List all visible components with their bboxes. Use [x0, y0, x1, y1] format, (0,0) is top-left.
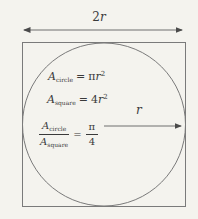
result-fraction: π 4	[86, 122, 99, 147]
circle-area-formula: Acircle=πr2	[48, 71, 105, 83]
numerator-subscript: circle	[49, 125, 66, 132]
result-denominator: 4	[89, 135, 95, 147]
circle-area-symbol: A	[48, 70, 56, 83]
square-area-subscript: square	[55, 99, 76, 106]
exponent: 2	[103, 93, 107, 101]
figure-canvas: 2r r Acircle=πr2 Asquare=4r2 Acircle Asq…	[0, 0, 198, 219]
diameter-coefficient: 2	[92, 10, 100, 24]
square-area-symbol: A	[47, 93, 55, 106]
area-ratio-formula: Acircle Asquare = π 4	[39, 121, 98, 148]
coefficient-four: 4	[91, 93, 98, 106]
ratio-denominator: Asquare	[40, 135, 68, 148]
equals-sign: =	[73, 130, 81, 140]
diameter-label: 2r	[0, 11, 198, 23]
result-numerator: π	[86, 122, 99, 135]
denominator-subscript: square	[47, 141, 68, 148]
exponent: 2	[101, 70, 105, 78]
radius-variable: r	[136, 103, 142, 117]
ratio-fraction: Acircle Asquare	[39, 121, 69, 148]
circle-area-subscript: circle	[56, 76, 73, 83]
equals-sign: =	[79, 93, 88, 106]
geometry-diagram	[0, 0, 198, 219]
square-area-formula: Asquare=4r2	[47, 94, 108, 106]
diameter-variable: r	[100, 10, 106, 24]
radius-label: r	[136, 104, 142, 116]
ratio-numerator: Acircle	[39, 121, 69, 135]
equals-sign: =	[76, 70, 85, 83]
